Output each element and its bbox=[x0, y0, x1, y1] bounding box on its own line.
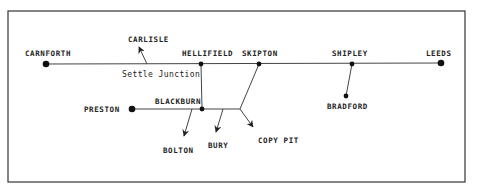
station-dot-leeds bbox=[438, 60, 445, 67]
station-dot-bradford bbox=[344, 94, 349, 99]
label-blackburn: BLACKBURN bbox=[155, 98, 201, 106]
carlisle-branch-arrow bbox=[139, 47, 147, 64]
station-dot-preston bbox=[129, 106, 136, 113]
label-hellifield: HELLIFIELD bbox=[182, 50, 233, 58]
station-dot-shipley bbox=[350, 62, 355, 67]
label-bradford: BRADFORD bbox=[327, 103, 368, 111]
station-dot-hellifield bbox=[199, 62, 204, 67]
label-carlisle: CARLISLE bbox=[128, 36, 169, 44]
station-dot-blackburn bbox=[200, 107, 205, 112]
diagram-frame bbox=[8, 11, 465, 182]
bradford-branch-line bbox=[346, 64, 352, 96]
label-shipley: SHIPLEY bbox=[332, 50, 368, 58]
label-skipton: SKIPTON bbox=[242, 50, 278, 58]
label-carnforth: CARNFORTH bbox=[25, 50, 71, 58]
skipton-branch-line bbox=[240, 64, 259, 109]
station-dot-carnforth bbox=[43, 61, 50, 68]
label-settle-junction: Settle Junction bbox=[122, 71, 200, 79]
bolton-arrow bbox=[184, 109, 192, 136]
bury-arrow bbox=[216, 109, 223, 132]
label-preston: PRESTON bbox=[84, 106, 120, 114]
label-copy-pit: COPY PIT bbox=[258, 137, 299, 145]
route-diagram bbox=[0, 0, 486, 192]
copy-pit-arrow bbox=[240, 109, 253, 127]
hellifield-blackburn-line bbox=[201, 64, 202, 109]
label-bolton: BOLTON bbox=[163, 147, 194, 155]
main-line bbox=[46, 63, 441, 64]
label-leeds: LEEDS bbox=[426, 50, 452, 58]
label-bury: BURY bbox=[208, 142, 228, 150]
station-dot-skipton bbox=[257, 62, 262, 67]
